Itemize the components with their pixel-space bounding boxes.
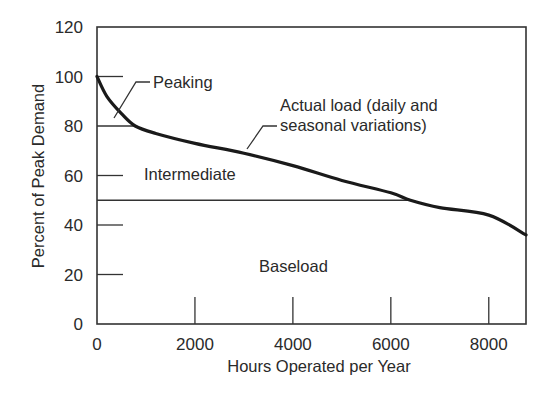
actual-load-leader-line xyxy=(247,126,277,149)
peaking-label: Peaking xyxy=(153,73,213,91)
x-tick-label: 4000 xyxy=(274,335,312,354)
y-tick-label: 0 xyxy=(74,315,83,334)
y-tick-label: 60 xyxy=(64,167,83,186)
y-tick-label: 120 xyxy=(55,18,83,37)
y-tick-label: 100 xyxy=(55,68,83,87)
actual-load-label-line1: Actual load (daily and xyxy=(280,96,438,114)
y-tick-label: 20 xyxy=(64,266,83,285)
x-tick-label: 2000 xyxy=(176,335,214,354)
x-tick-label: 8000 xyxy=(470,335,508,354)
y-axis-title: Percent of Peak Demand xyxy=(29,84,47,268)
y-axis-ticks: 020406080100120 xyxy=(55,18,123,334)
x-tick-label: 6000 xyxy=(372,335,410,354)
y-tick-label: 40 xyxy=(64,216,83,235)
x-axis-ticks: 02000400060008000 xyxy=(92,297,507,354)
load-duration-chart: 020406080100120 02000400060008000 Peakin… xyxy=(0,0,547,396)
y-tick-label: 80 xyxy=(64,117,83,136)
baseload-label: Baseload xyxy=(259,257,328,275)
actual-load-label-line2: seasonal variations) xyxy=(280,116,427,134)
reference-lines xyxy=(97,126,410,200)
x-axis-title: Hours Operated per Year xyxy=(227,357,411,375)
x-tick-label: 0 xyxy=(92,335,101,354)
intermediate-label: Intermediate xyxy=(144,165,236,183)
